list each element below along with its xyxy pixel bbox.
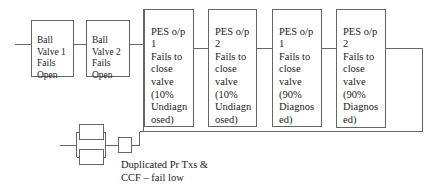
ccf-block — [118, 137, 132, 153]
lower-branch-caption: Duplicated Pr Txs & CCF – fail low — [121, 158, 208, 184]
pes-op2-diagnosed-block: PES o/p 2 Fails to close valve (90% Diag… — [336, 9, 386, 128]
pes-op1-undiagnosed-block: PES o/p 1 Fails to close valve (10% Undi… — [144, 9, 194, 127]
ball-valve-1-label: Ball Valve 1 Fails Open — [37, 35, 66, 79]
ball-valve-2-label: Ball Valve 2 Fails Open — [92, 35, 121, 79]
pes-op2-undiagnosed-block: PES o/p 2 Fails to close valve (10% Undi… — [208, 9, 257, 127]
ball-valve-2-block: Ball Valve 2 Fails Open — [86, 20, 130, 77]
ball-valve-1-block: Ball Valve 1 Fails Open — [31, 20, 74, 77]
pes-op1-undiagnosed-label: PES o/p 1 Fails to close valve (10% Undi… — [151, 26, 187, 125]
pes-op2-undiagnosed-label: PES o/p 2 Fails to close valve (10% Undi… — [215, 26, 251, 125]
pressure-transmitter-2-block — [79, 149, 104, 165]
pes-op1-diagnosed-block: PES o/p 1 Fails to close valve (90% Diag… — [272, 9, 322, 127]
pressure-transmitter-1-block — [79, 124, 104, 140]
reliability-block-diagram: Ball Valve 1 Fails Open Ball Valve 2 Fai… — [0, 0, 439, 187]
pes-op1-diagnosed-label: PES o/p 1 Fails to close valve (90% Diag… — [279, 26, 314, 125]
pes-op2-diagnosed-label: PES o/p 2 Fails to close valve (90% Diag… — [343, 26, 378, 125]
